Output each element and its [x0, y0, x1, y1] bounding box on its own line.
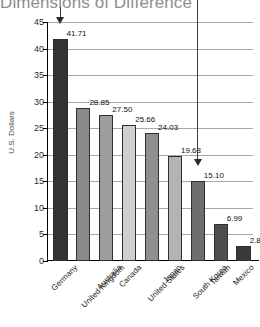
bar-value-label: 25.66	[135, 115, 155, 124]
y-axis-tick	[43, 181, 48, 182]
y-axis-tick-label: 0	[10, 256, 44, 266]
annotation-arrowhead	[194, 159, 202, 166]
bar-chart: Dimensions of Difference U.S. Dollars 45…	[0, 0, 260, 327]
x-axis-category-label: Germany	[50, 263, 80, 293]
bar-value-label: 15.10	[204, 171, 224, 180]
y-axis-tick-label: 25	[10, 123, 44, 133]
bar-value-label: 2.88	[250, 236, 260, 245]
x-axis-category-labels: GermanyUnited KingdomAustraliaCanadaUnit…	[47, 263, 260, 327]
bar[interactable]	[145, 133, 159, 261]
bar[interactable]	[122, 125, 136, 261]
y-axis-tick	[43, 22, 48, 23]
x-axis-category-label: Mexico	[231, 263, 255, 287]
y-axis-tick-label: 30	[10, 97, 44, 107]
gridline	[47, 22, 253, 23]
y-axis-tick	[43, 102, 48, 103]
annotation-pointer-line	[197, 0, 198, 159]
annotation-arrowhead	[56, 17, 64, 24]
bar[interactable]	[191, 181, 205, 261]
bar[interactable]	[53, 39, 67, 261]
bar-value-label: 41.71	[67, 29, 87, 38]
gridline	[47, 75, 253, 76]
bar[interactable]	[236, 246, 250, 261]
y-axis-tick-label: 10	[10, 203, 44, 213]
y-axis-tick-labels: 454035302520151050	[0, 22, 44, 262]
bar[interactable]	[214, 224, 228, 261]
annotation-pointer-line	[60, 7, 61, 17]
bar[interactable]	[99, 115, 113, 261]
y-axis-line	[47, 22, 48, 262]
chart-title: Dimensions of Difference	[0, 0, 260, 13]
y-axis-tick	[43, 49, 48, 50]
y-axis-tick	[43, 128, 48, 129]
y-axis-tick-label: 20	[10, 150, 44, 160]
bar[interactable]	[168, 156, 182, 261]
y-axis-tick-label: 40	[10, 44, 44, 54]
y-axis-tick-label: 35	[10, 70, 44, 80]
y-axis-tick	[43, 261, 48, 262]
y-axis-tick	[43, 208, 48, 209]
bar-value-label: 28.85	[89, 98, 109, 107]
bar-value-label: 24.03	[158, 123, 178, 132]
y-axis-tick	[43, 75, 48, 76]
gridline	[47, 102, 253, 103]
y-axis-tick	[43, 155, 48, 156]
plot-area: 41.7128.8527.5025.6624.0319.6815.106.992…	[47, 22, 253, 261]
y-axis-tick-label: 5	[10, 229, 44, 239]
x-axis-category-label: Australia	[95, 263, 123, 291]
gridline	[47, 49, 253, 50]
bar-value-label: 27.50	[112, 105, 132, 114]
y-axis-tick-label: 15	[10, 176, 44, 186]
bar-value-label: 6.99	[227, 214, 243, 223]
y-axis-tick	[43, 234, 48, 235]
y-axis-tick-label: 45	[10, 17, 44, 27]
bar[interactable]	[76, 108, 90, 261]
